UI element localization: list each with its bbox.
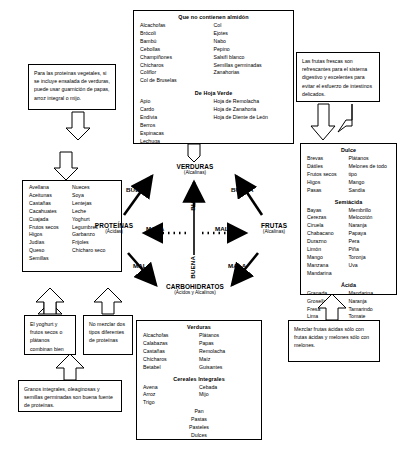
diagram-connectors	[0, 0, 403, 461]
